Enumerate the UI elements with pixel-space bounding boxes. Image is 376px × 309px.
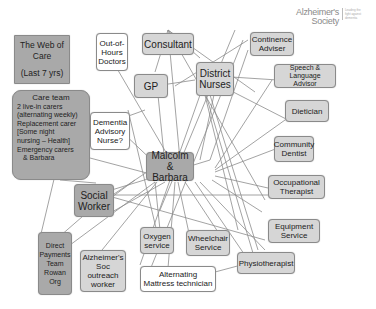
care-team-line: 2 live-in carers xyxy=(17,103,63,112)
logo-line2: Society xyxy=(296,17,339,26)
care-team-heading: Care team xyxy=(32,94,69,103)
node-dietician: Dietician xyxy=(285,100,329,122)
node-continence-adviser: Continence Adviser xyxy=(250,32,294,56)
alzheimers-society-logo: Alzheimer's Society Leading the fight ag… xyxy=(296,8,367,26)
title-line1: The Web of Care xyxy=(17,40,67,62)
node-consultant: Consultant xyxy=(142,33,194,55)
node-speech-language-advisor: Speech & Language Advisor xyxy=(274,64,336,88)
connector-line xyxy=(215,148,278,172)
node-alternating-mattress-technician: Alternating Mattress technician xyxy=(140,266,216,292)
node-alzheimers-soc-outreach-worker: Alzheimer's Soc outreach worker xyxy=(80,250,126,292)
connector-line xyxy=(60,180,96,183)
node-oxygen-service: Oxygen service xyxy=(140,227,174,254)
connector-line xyxy=(200,75,238,230)
node-wheelchair-service: Wheelchair Service xyxy=(186,230,230,256)
node-occupational-therapist: Occupational Therapist xyxy=(268,175,325,199)
care-team-line: (alternating weekly) xyxy=(17,111,78,120)
connector-line xyxy=(215,176,268,188)
node-malcolm-barbara: Malcolm & Barbara xyxy=(146,152,194,181)
node-direct-payments-team: Direct Payments Team Rowan Org xyxy=(38,232,72,295)
node-out-of-hours-doctors: Out-of-Hours Doctors xyxy=(96,33,128,71)
node-equipment-service: Equipment Service xyxy=(268,219,320,243)
connector-line xyxy=(155,182,160,230)
node-gp: GP xyxy=(134,74,168,98)
logo-tagline: Leading the fight against dementia xyxy=(342,8,367,20)
care-team-line: nursing – Health] xyxy=(17,137,70,146)
care-team-line: & Barbara xyxy=(17,154,55,163)
care-team-line: Emergency carers xyxy=(17,146,74,155)
connector-line xyxy=(40,175,55,238)
title-line2: (Last 7 yrs) xyxy=(21,68,64,79)
node-dementia-advisory-nurse: Dementia Advisory Nurse? xyxy=(90,112,130,150)
care-team-box: Care team 2 live-in carers (alternating … xyxy=(12,90,90,180)
node-physiotherapist: Physiotherapist xyxy=(237,252,295,274)
diagram-title-box: The Web of Care (Last 7 yrs) xyxy=(14,35,70,84)
node-social-worker: Social Worker xyxy=(74,184,114,217)
care-team-line: [Some night xyxy=(17,128,54,137)
care-team-line: Replacement carer xyxy=(17,120,76,129)
node-community-dentist: Community Dentist xyxy=(274,136,314,162)
node-district-nurses: District Nurses xyxy=(196,62,234,96)
connector-line xyxy=(105,195,265,240)
connector-line xyxy=(185,182,218,232)
